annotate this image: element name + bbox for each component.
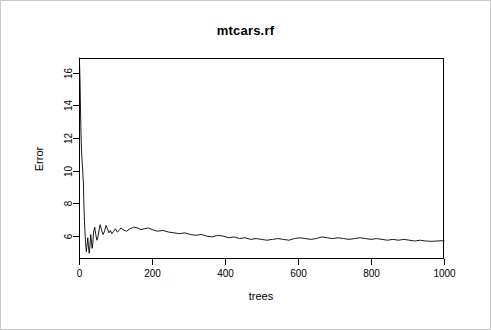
plot-frame [80,59,444,259]
y-tick-label: 14 [63,100,74,112]
y-axis-title: Error [33,146,45,171]
chart-screenshot: mtcars.rf 6810121416 02004006008001000 t… [0,0,491,330]
x-tick-label: 800 [363,268,380,279]
x-tick-label: 600 [290,268,307,279]
x-tick-label: 1000 [433,268,456,279]
x-tick-label: 0 [77,268,83,279]
y-axis: 6810121416 [63,68,79,240]
y-tick-label: 6 [63,233,74,239]
y-tick-label: 10 [63,166,74,178]
y-tick-label: 16 [63,68,74,80]
y-tick-label: 8 [63,200,74,206]
x-axis-title: trees [249,290,274,302]
x-axis: 02004006008001000 [77,259,456,279]
x-tick-label: 400 [217,268,234,279]
y-tick-label: 12 [63,133,74,145]
error-series-line [79,58,444,253]
error-vs-trees-plot: 6810121416 02004006008001000 trees Error [1,1,491,330]
x-tick-label: 200 [144,268,161,279]
